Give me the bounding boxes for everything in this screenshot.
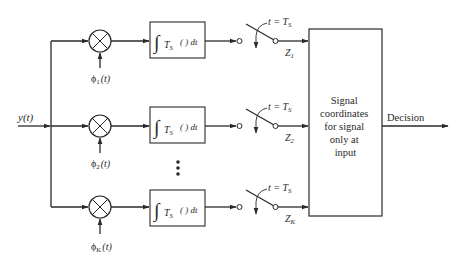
multiplier-icon [89,196,111,218]
svg-text:t = TS: t = TS [268,101,292,114]
output-coordinate-label: Z2 [285,132,295,145]
input-signal: y(t) [17,111,50,126]
svg-text:t = TS: t = TS [268,182,292,195]
svg-text:( ) dt: ( ) dt [180,205,198,215]
decision-label: Decision [387,112,425,123]
output-coordinate-label: ZK [285,213,296,226]
integrator-block: ∫ TS ( ) dt [150,107,205,143]
basis-function-label: ϕ1(t) [91,73,111,86]
decision-block: Signal coordinates for signal only at in… [309,29,382,216]
decision-output: Decision [382,112,448,126]
integrator-block: ∫ TS ( ) dt [150,190,205,226]
integrator-block: ∫ TS ( ) dt [150,22,205,58]
svg-text:( ) dt: ( ) dt [180,37,198,47]
branch-2: ϕ2(t) ∫ TS ( ) dt t = TS Z2 [51,101,308,171]
ellipsis-dots [176,160,180,176]
branch-1: ϕ1(t) ∫ TS ( ) dt t = TS Z1 [51,16,308,86]
multiplier-icon [89,30,111,52]
sampling-switch: t = TS [237,182,292,214]
basis-function-label: ϕ2(t) [91,158,111,171]
sampling-switch: t = TS [237,16,292,48]
svg-text:t = TS: t = TS [268,16,292,29]
input-label: y(t) [17,111,34,124]
multiplier-icon [89,115,111,137]
basis-function-label: ϕK(t) [91,241,112,254]
output-coordinate-label: Z1 [285,47,294,60]
correlation-receiver-diagram: y(t) ϕ1(t) ∫ TS ( ) dt t = TS [0,0,453,263]
sampling-switch: t = TS [237,101,292,133]
svg-text:( ) dt: ( ) dt [180,122,198,132]
branch-k: ϕK(t) ∫ TS ( ) dt t = TS ZK [51,182,308,254]
